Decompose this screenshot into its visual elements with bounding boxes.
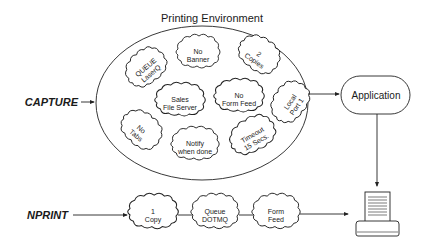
cloud-form-feed: Form Feed [252,193,300,228]
svg-text:Copy: Copy [145,216,162,224]
svg-text:Form: Form [268,208,285,215]
svg-text:Notify: Notify [186,140,204,148]
cloud-2-copies: 2 Copies [232,27,287,80]
svg-text:Form Feed: Form Feed [222,100,256,107]
svg-text:File Server: File Server [163,104,198,111]
cloud-queue-dotmq: Queue DOTMQ [191,193,239,228]
svg-text:Queue: Queue [204,208,225,216]
cloud-no-banner: No Banner [176,34,220,68]
svg-text:when done: when done [177,148,212,155]
cloud-no-form-feed: No Form Feed [214,78,265,112]
diagram-title: Printing Environment [161,12,263,24]
svg-text:1: 1 [151,208,155,215]
printer-icon [356,192,399,236]
cloud-timeout-15-secs: Timeout 15 Secs. [223,108,282,161]
svg-text:Feed: Feed [268,216,284,223]
application-label: Application [352,90,401,101]
cloud-sales-file-server: Sales File Server [155,82,206,116]
cloud-1-copy: 1 Copy [128,193,179,228]
svg-text:Banner: Banner [187,56,210,63]
capture-label: CAPTURE [25,96,79,108]
svg-text:Sales: Sales [171,96,189,103]
svg-text:DOTMQ: DOTMQ [202,216,229,224]
svg-text:No: No [194,48,203,55]
svg-text:No: No [235,92,244,99]
printing-environment-diagram: Printing Environment CAPTURE QUEUE Laser… [0,0,433,245]
nprint-label: NPRINT [27,209,69,221]
cloud-notify-when-done: Notify when done [171,126,219,160]
